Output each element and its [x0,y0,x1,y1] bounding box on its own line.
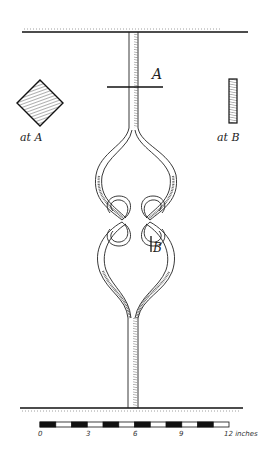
scale-tick-3: 3 [86,430,90,438]
section-mark-b-label: B [153,241,162,255]
upper-stem [129,32,138,128]
scroll-loops [95,128,176,318]
caption-at-a: at A [20,131,42,144]
scale-tick-0: 0 [38,430,42,438]
bottom-rail [20,408,243,411]
caption-at-b: at B [217,131,240,144]
section-detail-b-bar [229,79,237,123]
scale-bar [40,422,229,427]
loop-shading [99,176,174,318]
scale-end-label: 12 inches [224,430,258,438]
scale-tick-6: 6 [133,430,137,438]
section-mark-a-label: A [152,66,162,82]
c-scrolls [107,196,165,246]
top-rail [22,29,248,32]
lower-stem [128,318,138,408]
baluster-drawing [0,0,280,452]
section-detail-a-diamond [17,80,63,126]
scale-tick-9: 9 [179,430,183,438]
